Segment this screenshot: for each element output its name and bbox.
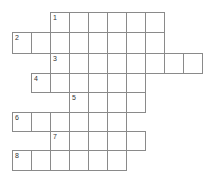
clue-number: 4 <box>34 75 38 82</box>
crossword-cell[interactable] <box>31 112 51 132</box>
crossword-cell[interactable]: 7 <box>50 131 70 151</box>
clue-number: 3 <box>53 55 57 62</box>
crossword-cell[interactable] <box>107 73 127 93</box>
crossword-cell[interactable] <box>126 32 146 54</box>
crossword-cell[interactable]: 5 <box>69 92 89 113</box>
crossword-cell[interactable] <box>88 32 108 54</box>
crossword-cell[interactable] <box>145 12 165 33</box>
clue-number: 1 <box>53 14 57 21</box>
crossword-cell[interactable] <box>50 150 70 171</box>
crossword-cell[interactable] <box>88 73 108 93</box>
crossword-cell[interactable] <box>88 131 108 151</box>
crossword-grid: 12345678 <box>0 0 217 179</box>
crossword-cell[interactable] <box>126 73 146 93</box>
crossword-cell[interactable] <box>145 32 165 54</box>
crossword-cell[interactable] <box>69 131 89 151</box>
crossword-cell[interactable] <box>126 92 146 113</box>
crossword-cell[interactable] <box>107 92 127 113</box>
crossword-cell[interactable]: 4 <box>31 73 51 93</box>
crossword-cell[interactable] <box>88 53 108 74</box>
crossword-cell[interactable] <box>107 150 127 171</box>
crossword-cell[interactable] <box>69 53 89 74</box>
crossword-cell[interactable] <box>31 150 51 171</box>
crossword-cell[interactable] <box>107 53 127 74</box>
crossword-cell[interactable] <box>88 12 108 33</box>
crossword-cell[interactable] <box>107 131 127 151</box>
crossword-cell[interactable] <box>69 150 89 171</box>
crossword-cell[interactable] <box>50 32 70 54</box>
crossword-cell[interactable] <box>88 150 108 171</box>
crossword-cell[interactable] <box>107 112 127 132</box>
clue-number: 5 <box>72 94 76 101</box>
crossword-cell[interactable] <box>145 53 165 74</box>
crossword-cell[interactable]: 6 <box>12 112 32 132</box>
crossword-cell[interactable] <box>50 112 70 132</box>
crossword-cell[interactable] <box>88 112 108 132</box>
crossword-cell[interactable]: 1 <box>50 12 70 33</box>
clue-number: 2 <box>15 34 19 41</box>
crossword-cell[interactable] <box>126 131 146 151</box>
crossword-cell[interactable] <box>126 53 146 74</box>
clue-number: 6 <box>15 114 19 121</box>
crossword-cell[interactable] <box>183 53 203 74</box>
crossword-cell[interactable] <box>107 12 127 33</box>
crossword-cell[interactable] <box>88 92 108 113</box>
crossword-cell[interactable] <box>50 73 70 93</box>
clue-number: 7 <box>53 133 57 140</box>
clue-number: 8 <box>15 152 19 159</box>
crossword-cell[interactable]: 3 <box>50 53 70 74</box>
crossword-cell[interactable] <box>69 32 89 54</box>
crossword-cell[interactable] <box>164 53 184 74</box>
crossword-cell[interactable] <box>107 32 127 54</box>
crossword-cell[interactable] <box>69 112 89 132</box>
crossword-cell[interactable] <box>69 12 89 33</box>
crossword-cell[interactable] <box>31 32 51 54</box>
crossword-cell[interactable]: 2 <box>12 32 32 54</box>
crossword-cell[interactable] <box>126 12 146 33</box>
crossword-cell[interactable] <box>69 73 89 93</box>
crossword-cell[interactable]: 8 <box>12 150 32 171</box>
